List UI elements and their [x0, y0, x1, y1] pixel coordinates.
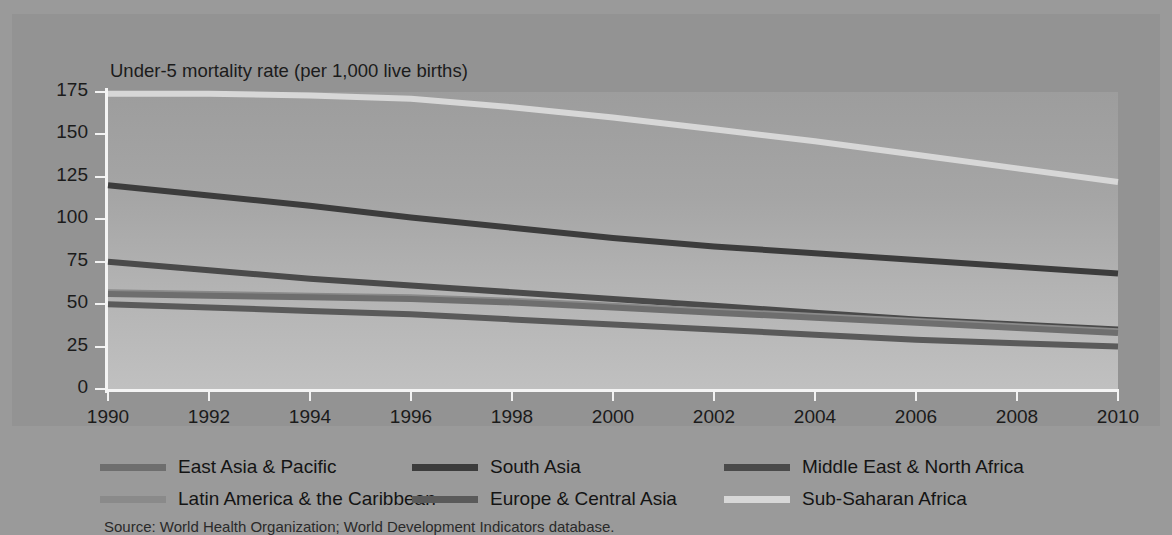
legend-swatch-icon: [100, 464, 166, 471]
series-line: [108, 94, 1118, 182]
chart-panel: 1751501251007550250 19901992199419961998…: [12, 14, 1160, 426]
legend-item[interactable]: Europe & Central Asia: [412, 488, 677, 510]
legend-item-label: East Asia & Pacific: [178, 456, 336, 478]
legend-item-label: Sub-Saharan Africa: [802, 488, 967, 510]
legend-item-label: Latin America & the Caribbean: [178, 488, 436, 510]
legend-item-label: South Asia: [490, 456, 581, 478]
legend-swatch-icon: [412, 464, 478, 471]
legend-item[interactable]: East Asia & Pacific: [100, 456, 336, 478]
legend-swatch-icon: [412, 496, 478, 503]
series-lines: [12, 14, 1160, 426]
legend-item[interactable]: South Asia: [412, 456, 581, 478]
legend-item-label: Europe & Central Asia: [490, 488, 677, 510]
legend-item-label: Middle East & North Africa: [802, 456, 1024, 478]
legend-item[interactable]: Sub-Saharan Africa: [724, 488, 967, 510]
chart-legend: East Asia & PacificSouth AsiaMiddle East…: [12, 452, 1160, 512]
source-note: Source: World Health Organization; World…: [104, 518, 615, 535]
legend-item[interactable]: Middle East & North Africa: [724, 456, 1024, 478]
legend-item[interactable]: Latin America & the Caribbean: [100, 488, 436, 510]
legend-swatch-icon: [100, 496, 166, 503]
legend-swatch-icon: [724, 464, 790, 471]
legend-swatch-icon: [724, 496, 790, 503]
series-line: [108, 185, 1118, 273]
